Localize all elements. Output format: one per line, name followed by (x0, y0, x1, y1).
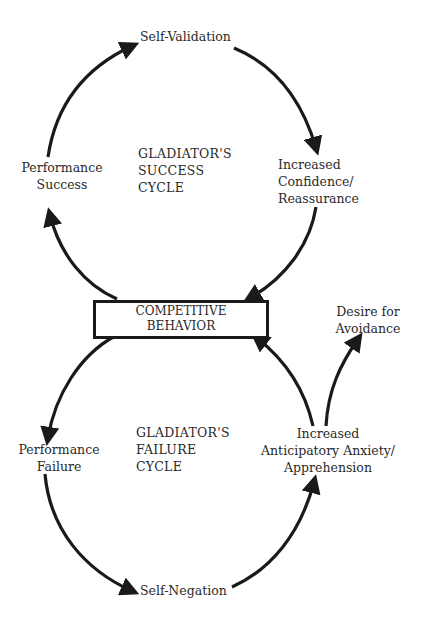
title-line: GLADIATOR'S (138, 145, 232, 162)
failure-cycle-title: GLADIATOR'S FAILURE CYCLE (136, 424, 230, 475)
node-anticipatory-anxiety: Increased Anticipatory Anxiety/ Apprehen… (258, 425, 398, 476)
box-line: BEHAVIOR (96, 319, 266, 334)
node-line: Desire for (333, 303, 403, 320)
node-line: Reassurance (278, 190, 359, 207)
arrow-failure-to-negation (45, 474, 132, 591)
title-line: FAILURE (136, 441, 230, 458)
node-line: Confidence/ (278, 173, 359, 190)
arrow-behavior-to-success (50, 215, 117, 299)
node-desire-for-avoidance: Desire for Avoidance (333, 303, 403, 337)
arrow-confidence-to-behavior (250, 207, 316, 298)
node-line: Anticipatory Anxiety/ (258, 442, 398, 459)
title-line: GLADIATOR'S (136, 424, 230, 441)
node-self-negation: Self-Negation (140, 582, 227, 599)
success-cycle-title: GLADIATOR'S SUCCESS CYCLE (138, 145, 232, 196)
gladiator-cycles-diagram: Self-Validation Increased Confidence/ Re… (0, 0, 421, 627)
node-line: Performance (17, 441, 101, 458)
node-line: Apprehension (258, 459, 398, 476)
title-line: CYCLE (138, 179, 232, 196)
node-line: Avoidance (333, 320, 403, 337)
node-line: Increased (258, 425, 398, 442)
arrow-anxiety-to-avoidance (326, 339, 358, 426)
arrow-anxiety-to-behavior (257, 338, 313, 426)
node-line: Performance (20, 159, 104, 176)
competitive-behavior-box: COMPETITIVE BEHAVIOR (93, 300, 269, 339)
node-line: Failure (17, 458, 101, 475)
node-self-validation: Self-Validation (140, 28, 231, 45)
node-performance-failure: Performance Failure (17, 441, 101, 475)
node-performance-success: Performance Success (20, 159, 104, 193)
arrow-success-to-validation (48, 46, 132, 157)
title-line: SUCCESS (138, 162, 232, 179)
node-line: Success (20, 176, 104, 193)
arrow-negation-to-anxiety (232, 482, 314, 587)
title-line: CYCLE (136, 458, 230, 475)
box-line: COMPETITIVE (96, 304, 266, 319)
arrow-behavior-to-failure (48, 336, 115, 438)
node-increased-confidence: Increased Confidence/ Reassurance (278, 156, 359, 207)
arrow-validation-to-confidence (234, 48, 316, 148)
node-line: Increased (278, 156, 359, 173)
